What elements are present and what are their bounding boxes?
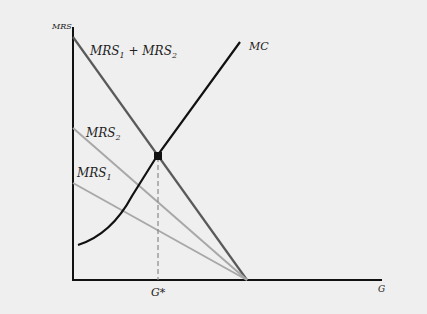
mrs1-curve: [73, 183, 247, 280]
equilibrium-point: [154, 152, 162, 160]
g-star-label: G*: [151, 286, 166, 299]
mc-curve: [78, 42, 240, 245]
x-axis-label: G: [378, 284, 385, 294]
mc-label: MC: [248, 40, 269, 53]
mrs2-label: MRS2: [85, 126, 121, 142]
mrs-sum-label: MRS1 + MRS2: [89, 44, 177, 60]
mrs1-label: MRS1: [76, 166, 112, 182]
public-goods-diagram: MRS G MRS1 + MRS2 MRS2 MRS1 MC G*: [0, 0, 427, 314]
y-axis-label: MRS: [51, 22, 72, 31]
